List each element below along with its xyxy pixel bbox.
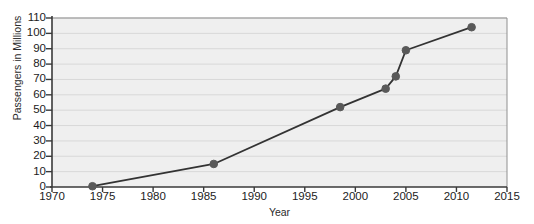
y-tick-label: 20 [16, 150, 46, 162]
x-tick-label: 1990 [232, 190, 276, 202]
y-tick-label: 30 [16, 135, 46, 147]
y-tick-label: 70 [16, 73, 46, 85]
data-point-marker[interactable] [210, 160, 218, 168]
x-tick-label: 2010 [434, 190, 478, 202]
chart-title [0, 0, 534, 1]
y-tick-label: 60 [16, 89, 46, 101]
y-tick-label: 110 [16, 12, 46, 24]
data-point-marker[interactable] [89, 182, 97, 190]
plot-background [52, 18, 507, 187]
x-tick-label: 1980 [131, 190, 175, 202]
y-tick-label: 100 [16, 27, 46, 39]
x-tick-label: 1985 [182, 190, 226, 202]
data-point-marker[interactable] [392, 73, 400, 81]
y-tick-label: 10 [16, 166, 46, 178]
data-point-marker[interactable] [336, 103, 344, 111]
data-point-marker[interactable] [468, 23, 476, 31]
y-tick-label: 80 [16, 58, 46, 70]
x-tick-label: 1975 [81, 190, 125, 202]
data-point-marker[interactable] [382, 85, 390, 93]
y-tick-label: 40 [16, 120, 46, 132]
x-tick-label: 1970 [30, 190, 74, 202]
x-tick-label: 2005 [384, 190, 428, 202]
data-point-marker[interactable] [402, 46, 410, 54]
x-axis-label: Year [52, 206, 507, 218]
y-tick-label: 50 [16, 104, 46, 116]
x-tick-label: 1995 [283, 190, 327, 202]
chart-figure: Passengers in Millions Year 010203040506… [0, 0, 534, 224]
x-tick-label: 2015 [485, 190, 529, 202]
y-tick-label: 90 [16, 43, 46, 55]
x-tick-label: 2000 [333, 190, 377, 202]
